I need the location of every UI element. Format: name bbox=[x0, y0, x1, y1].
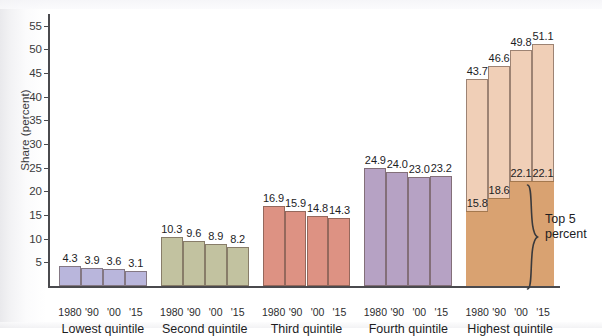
bar[interactable] bbox=[227, 247, 249, 286]
bar-value-label-top5: 22.1 bbox=[511, 167, 532, 179]
x-tick-label: '00 bbox=[209, 306, 223, 318]
top5-brace bbox=[525, 184, 539, 290]
y-tick-mark bbox=[44, 97, 50, 98]
x-tick-label: '90 bbox=[85, 306, 99, 318]
bar[interactable] bbox=[285, 211, 307, 286]
y-tick-label: 10 bbox=[10, 233, 42, 245]
x-tick-label: '15 bbox=[536, 306, 550, 318]
y-axis-title: Share (percent) bbox=[19, 60, 31, 200]
group-label: Fourth quintile bbox=[369, 322, 448, 336]
bar-value-label: 3.9 bbox=[84, 254, 99, 266]
bar-value-label: 46.6 bbox=[489, 52, 510, 64]
x-tick-label: '90 bbox=[187, 306, 201, 318]
bar-segment-top5[interactable] bbox=[466, 211, 488, 286]
group-label: Highest quintile bbox=[467, 322, 552, 336]
bar[interactable] bbox=[364, 168, 386, 286]
y-tick-mark bbox=[44, 239, 50, 240]
bar[interactable] bbox=[488, 66, 510, 286]
y-tick-mark bbox=[44, 262, 50, 263]
x-tick-label: '00 bbox=[514, 306, 528, 318]
bar[interactable] bbox=[466, 79, 488, 286]
bar-value-label: 3.1 bbox=[128, 257, 143, 269]
y-tick-mark bbox=[44, 168, 50, 169]
plot-inner: 4.33.93.63.110.39.68.98.216.915.914.814.… bbox=[50, 14, 560, 286]
bar-value-label: 8.2 bbox=[230, 233, 245, 245]
top5-brace-label-line1: Top 5 bbox=[545, 212, 587, 227]
bar-value-label-top5: 22.1 bbox=[533, 167, 554, 179]
y-tick-mark bbox=[44, 215, 50, 216]
y-tick-label: 15 bbox=[10, 209, 42, 221]
bar-value-label: 49.8 bbox=[511, 36, 532, 48]
bar-value-label: 51.1 bbox=[533, 30, 554, 42]
x-tick-label: '15 bbox=[129, 306, 143, 318]
x-tick-label: '00 bbox=[107, 306, 121, 318]
bar-value-label: 24.9 bbox=[365, 154, 386, 166]
bar-value-label: 10.3 bbox=[161, 223, 182, 235]
bar-value-label: 3.6 bbox=[106, 255, 121, 267]
bar[interactable] bbox=[408, 177, 430, 286]
x-tick-label: '90 bbox=[492, 306, 506, 318]
bar-value-label: 16.9 bbox=[263, 192, 284, 204]
bar-segment-top5[interactable] bbox=[488, 198, 510, 286]
y-tick-label: 35 bbox=[10, 114, 42, 126]
bar[interactable] bbox=[263, 206, 285, 286]
top5-brace-label-line2: percent bbox=[545, 227, 587, 242]
bar[interactable] bbox=[386, 172, 408, 286]
y-tick-label: 55 bbox=[10, 20, 42, 32]
bar[interactable] bbox=[103, 269, 125, 286]
x-tick-label: '90 bbox=[289, 306, 303, 318]
scan-edge-top bbox=[0, 0, 602, 9]
bar[interactable] bbox=[307, 216, 329, 286]
bar[interactable] bbox=[81, 268, 103, 286]
y-tick-mark bbox=[44, 26, 50, 27]
top5-brace-label: Top 5 percent bbox=[545, 212, 587, 242]
bar-value-label: 23.2 bbox=[431, 162, 452, 174]
bar-value-label: 14.8 bbox=[307, 202, 328, 214]
x-tick-label: '90 bbox=[390, 306, 404, 318]
y-tick-label: 5 bbox=[10, 256, 42, 268]
y-tick-label: 30 bbox=[10, 138, 42, 150]
bar-value-label: 15.9 bbox=[285, 197, 306, 209]
y-tick-mark bbox=[44, 191, 50, 192]
group-label: Second quintile bbox=[162, 322, 247, 336]
y-tick-label: 40 bbox=[10, 91, 42, 103]
x-tick-label: 1980 bbox=[364, 306, 387, 318]
plot-area: 4.33.93.63.110.39.68.98.216.915.914.814.… bbox=[48, 14, 560, 288]
y-tick-mark bbox=[44, 144, 50, 145]
x-tick-label: '15 bbox=[434, 306, 448, 318]
bar[interactable] bbox=[183, 241, 205, 286]
x-tick-label: 1980 bbox=[262, 306, 285, 318]
y-tick-label: 45 bbox=[10, 67, 42, 79]
bar[interactable] bbox=[125, 271, 147, 286]
bar[interactable] bbox=[328, 218, 350, 286]
x-tick-label: 1980 bbox=[160, 306, 183, 318]
bar-value-label: 8.9 bbox=[208, 230, 223, 242]
y-tick-mark bbox=[44, 73, 50, 74]
y-tick-label: 50 bbox=[10, 43, 42, 55]
bar-value-label: 14.3 bbox=[329, 204, 350, 216]
bar-value-label-top5: 15.8 bbox=[467, 197, 488, 209]
x-tick-label: '00 bbox=[412, 306, 426, 318]
y-tick-label: 25 bbox=[10, 162, 42, 174]
x-tick-label: '00 bbox=[311, 306, 325, 318]
group-label: Third quintile bbox=[271, 322, 343, 336]
bar[interactable] bbox=[430, 176, 452, 286]
group-label: Lowest quintile bbox=[62, 322, 145, 336]
x-tick-label: 1980 bbox=[58, 306, 81, 318]
x-tick-label: 1980 bbox=[465, 306, 488, 318]
y-tick-mark bbox=[44, 120, 50, 121]
x-tick-label: '15 bbox=[333, 306, 347, 318]
bar-value-label: 9.6 bbox=[186, 227, 201, 239]
bar-value-label: 23.0 bbox=[409, 163, 430, 175]
y-tick-label: 20 bbox=[10, 185, 42, 197]
bar-value-label: 24.0 bbox=[387, 158, 408, 170]
bar-value-label-top5: 18.6 bbox=[489, 184, 510, 196]
x-tick-label: '15 bbox=[231, 306, 245, 318]
bar-value-label: 43.7 bbox=[467, 65, 488, 77]
bar[interactable] bbox=[205, 244, 227, 286]
y-tick-mark bbox=[44, 49, 50, 50]
bar-value-label: 4.3 bbox=[62, 252, 77, 264]
bar[interactable] bbox=[161, 237, 183, 286]
bar[interactable] bbox=[59, 266, 81, 286]
